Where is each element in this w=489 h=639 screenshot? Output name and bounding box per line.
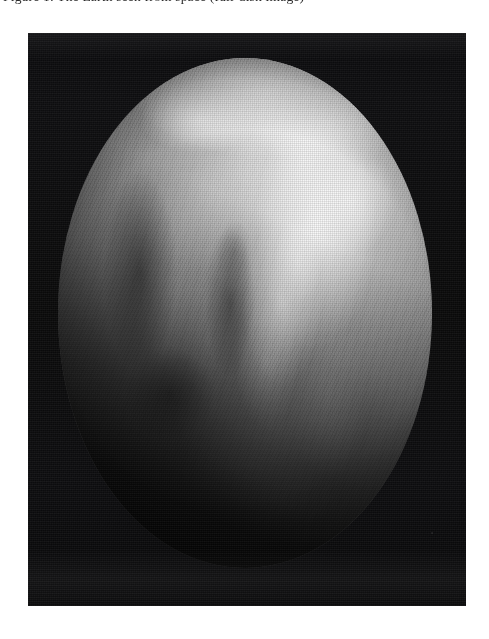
earth-globe: [58, 58, 432, 568]
ocean-dark-region: [58, 58, 432, 568]
halftone-screen: [58, 58, 432, 568]
southern-storm-swirl: [58, 58, 432, 568]
equatorial-cloud-band: [58, 58, 432, 568]
limb-darkening: [58, 58, 432, 568]
landmass-texture: [58, 58, 432, 568]
figure-plate: [28, 33, 466, 606]
figure-caption-text: Figure 1: The Earth seen from space (ful…: [0, 0, 489, 5]
terminator-night-shadow: [58, 58, 432, 568]
northern-cloud-cap: [58, 58, 432, 568]
figure-caption-clipped: Figure 1: The Earth seen from space (ful…: [0, 0, 489, 5]
